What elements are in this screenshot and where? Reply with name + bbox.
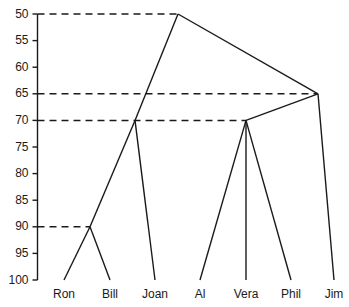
- y-axis-tick-label: 80: [15, 166, 29, 180]
- tick-marks-group: [33, 14, 38, 280]
- dendrogram-branch: [90, 120, 135, 226]
- dendrogram-svg: 50556065707580859095100 RonBillJoanAlVer…: [0, 0, 349, 307]
- y-axis-tick-label: 95: [15, 246, 29, 260]
- dendrogram-branch: [64, 227, 90, 280]
- dendrogram-branch: [135, 14, 178, 120]
- leaf-labels-group: RonBillJoanAlVeraPhilJim: [53, 287, 343, 301]
- y-axis-tick-label: 90: [15, 219, 29, 233]
- leaf-label: Ron: [53, 287, 75, 301]
- tree-branches-group: [64, 14, 334, 280]
- y-axis-tick-label: 75: [15, 140, 29, 154]
- dendrogram-branch: [246, 94, 318, 121]
- dendrogram-branch: [318, 94, 334, 280]
- leaf-label: Al: [195, 287, 206, 301]
- dendrogram-branch: [90, 227, 110, 280]
- y-axis-tick-label: 50: [15, 7, 29, 21]
- y-axis-tick-label: 70: [15, 113, 29, 127]
- y-axis-tick-label: 85: [15, 193, 29, 207]
- leaf-label: Phil: [281, 287, 301, 301]
- leaf-label: Bill: [102, 287, 118, 301]
- y-axis-tick-label: 60: [15, 60, 29, 74]
- dendrogram-branch: [246, 120, 291, 280]
- dendrogram-branch: [200, 120, 246, 280]
- leaf-label: Joan: [142, 287, 168, 301]
- dendrogram-chart: 50556065707580859095100 RonBillJoanAlVer…: [0, 0, 349, 307]
- y-axis-tick-label: 100: [8, 273, 28, 287]
- dendrogram-branch: [178, 14, 318, 94]
- guide-lines-group: [38, 14, 319, 227]
- leaf-label: Jim: [325, 287, 344, 301]
- tick-labels-group: 50556065707580859095100: [8, 7, 28, 287]
- dendrogram-branch: [135, 120, 155, 280]
- leaf-label: Vera: [234, 287, 259, 301]
- y-axis-tick-label: 65: [15, 86, 29, 100]
- y-axis-tick-label: 55: [15, 33, 29, 47]
